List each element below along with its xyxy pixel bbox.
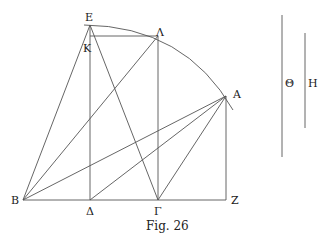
label-E: E — [85, 11, 93, 24]
label-L: Λ — [155, 26, 165, 39]
line-G-A — [158, 96, 226, 200]
label-Z: Z — [231, 194, 239, 207]
label-K: K — [83, 42, 92, 55]
label-D: Δ — [86, 205, 94, 218]
geometric-diagram: E K Λ A B Δ Γ Z Θ H Fig. 26 — [0, 0, 324, 243]
line-B-E — [23, 25, 90, 200]
label-A: A — [232, 88, 242, 101]
line-B-L — [23, 36, 158, 200]
line-B-A — [23, 96, 226, 200]
label-G: Γ — [154, 205, 162, 218]
figure-caption: Fig. 26 — [146, 219, 189, 233]
label-theta: Θ — [285, 77, 294, 90]
label-eta: H — [308, 77, 318, 90]
label-B: B — [11, 194, 19, 207]
